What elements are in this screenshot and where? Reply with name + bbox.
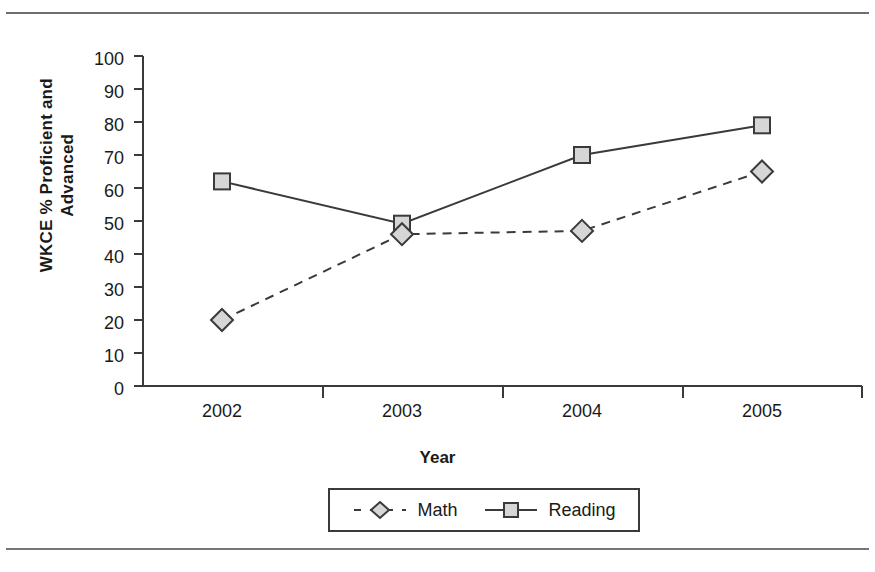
line-chart: WKCE % Proficient and Advanced 100 90 80… (0, 26, 875, 446)
page-rule-bottom (6, 548, 869, 550)
series-reading-line (222, 125, 762, 223)
x-tick-label-2005: 2005 (702, 402, 822, 420)
data-point-math-2005 (751, 161, 773, 183)
clipped-header-text (40, 0, 840, 2)
plot-canvas (0, 26, 875, 446)
series-math (211, 161, 773, 332)
y-tick-marks (134, 56, 143, 386)
chart-legend: Math Reading (328, 488, 640, 532)
data-point-math-2004 (571, 220, 593, 242)
data-point-reading-2005 (754, 117, 770, 133)
legend-label-reading: Reading (548, 501, 615, 519)
x-axis-title: Year (0, 448, 875, 468)
legend-entry-reading: Reading (483, 500, 615, 520)
data-point-math-2002 (211, 309, 233, 331)
data-point-reading-2002 (214, 173, 230, 189)
series-reading (214, 117, 770, 231)
data-point-reading-2004 (574, 147, 590, 163)
x-tick-label-2003: 2003 (342, 402, 462, 420)
square-marker-icon (483, 500, 539, 520)
legend-entry-math: Math (352, 500, 457, 520)
series-math-line (222, 172, 762, 321)
x-tick-label-2002: 2002 (162, 402, 282, 420)
legend-label-math: Math (417, 501, 457, 519)
x-tick-marks (323, 386, 862, 398)
x-tick-label-2004: 2004 (522, 402, 642, 420)
diamond-marker-icon (352, 500, 408, 520)
page-rule-top (6, 12, 869, 14)
